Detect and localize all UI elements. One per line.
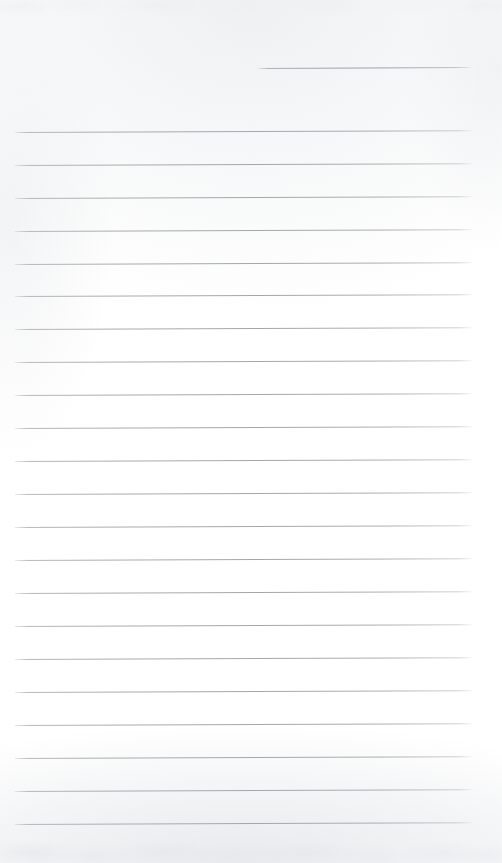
rule-ink: [258, 67, 472, 69]
rule-ink: [15, 459, 472, 462]
ruled-line[interactable]: [15, 393, 472, 396]
rule-ink: [15, 822, 472, 825]
rule-ink: [15, 130, 472, 133]
ruled-line[interactable]: [15, 163, 472, 166]
ruled-line[interactable]: [15, 624, 472, 627]
rule-ink: [15, 525, 472, 528]
writing-area[interactable]: [0, 0, 502, 863]
rule-ink: [15, 426, 472, 429]
rule-ink: [15, 163, 472, 166]
rule-ink: [15, 591, 472, 594]
rule-ink: [15, 558, 472, 561]
ruled-line[interactable]: [15, 756, 472, 759]
rule-ink: [15, 756, 472, 759]
rule-ink: [15, 657, 472, 660]
rule-ink: [15, 723, 472, 726]
ruled-line[interactable]: [15, 196, 472, 199]
ruled-line[interactable]: [15, 262, 472, 265]
rule-ink: [15, 393, 472, 396]
rule-ink: [15, 360, 472, 363]
ruled-line[interactable]: [15, 327, 472, 330]
ruled-line[interactable]: [15, 789, 472, 792]
rule-ink: [15, 327, 472, 330]
ruled-line[interactable]: [15, 360, 472, 363]
ruled-line[interactable]: [15, 525, 472, 528]
ruled-line[interactable]: [15, 591, 472, 594]
scanned-page: [0, 0, 502, 863]
ruled-line[interactable]: [15, 459, 472, 462]
ruled-line[interactable]: [15, 657, 472, 660]
rule-ink: [15, 196, 472, 199]
rule-ink: [15, 229, 472, 232]
rule-ink: [15, 690, 472, 693]
ruled-line[interactable]: [15, 690, 472, 693]
ruled-line[interactable]: [15, 229, 472, 232]
top-right-entry-rule[interactable]: [258, 67, 472, 69]
rule-ink: [15, 262, 472, 265]
rule-ink: [15, 624, 472, 627]
rule-ink: [15, 294, 472, 297]
rule-ink: [15, 492, 472, 495]
ruled-line[interactable]: [15, 294, 472, 297]
rule-ink: [15, 789, 472, 792]
ruled-line[interactable]: [15, 558, 472, 561]
ruled-line[interactable]: [15, 723, 472, 726]
ruled-line[interactable]: [15, 492, 472, 495]
ruled-line[interactable]: [15, 426, 472, 429]
ruled-line[interactable]: [15, 130, 472, 133]
ruled-line[interactable]: [15, 822, 472, 825]
